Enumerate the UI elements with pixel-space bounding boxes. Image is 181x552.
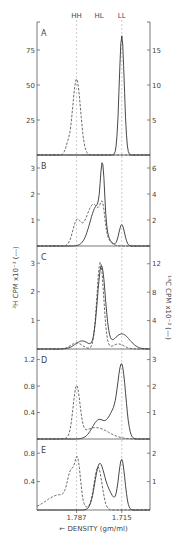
left-tick-label: 75 — [26, 47, 35, 55]
density-gradient-chart: HHHLLLA25507551015B123246C1234812D0.40.8… — [0, 0, 181, 552]
left-tick-label: 1 — [31, 217, 35, 225]
left-tick-label: 0.8 — [24, 450, 35, 458]
panel-d-3h-curve — [37, 385, 150, 439]
x-tick-label: 1.787 — [67, 514, 87, 522]
panel-a-14c-curve — [37, 36, 150, 155]
left-tick-label: 1 — [31, 317, 35, 325]
left-tick-label: 0.4 — [24, 409, 36, 417]
x-tick-label: 1.715 — [112, 514, 132, 522]
x-axis-title: ← DENSITY (gm/ml) — [59, 525, 128, 533]
right-tick-label: 3 — [152, 356, 156, 364]
left-tick-label: 2 — [31, 288, 35, 296]
right-tick-label: 15 — [152, 47, 161, 55]
left-tick-label: 3 — [31, 165, 35, 173]
right-tick-label: 2 — [152, 217, 156, 225]
left-tick-label: 3 — [31, 260, 35, 268]
panel-c-14c-curve — [37, 266, 150, 349]
right-tick-label: 4 — [152, 191, 157, 199]
right-tick-label: 5 — [152, 117, 156, 125]
right-tick-label: 4 — [152, 317, 157, 325]
right-tick-label: 12 — [152, 260, 161, 268]
reference-label-hl: HL — [95, 12, 104, 20]
left-axis-title: ³H CPM x10⁻³ (---) — [12, 246, 20, 309]
reference-label-hh: HH — [71, 12, 82, 20]
panel-label-a: A — [41, 29, 47, 38]
panel-label-d: D — [41, 356, 47, 365]
left-tick-label: 0.8 — [24, 383, 35, 391]
left-tick-label: 1.2 — [24, 356, 35, 364]
left-tick-label: 25 — [26, 117, 35, 125]
right-tick-label: 6 — [152, 165, 157, 173]
panel-label-e: E — [41, 446, 46, 455]
right-tick-label: 2 — [152, 383, 156, 391]
left-tick-label: 0.4 — [24, 478, 36, 486]
right-tick-label: 2 — [152, 450, 156, 458]
left-tick-label: 2 — [31, 191, 35, 199]
panel-b-14c-curve — [37, 163, 150, 246]
right-tick-label: 8 — [152, 289, 156, 297]
left-tick-label: 50 — [26, 82, 35, 90]
right-tick-label: 1 — [152, 409, 156, 417]
panel-a-3h-curve — [37, 79, 150, 155]
panel-label-b: B — [41, 162, 47, 171]
right-tick-label: 10 — [152, 82, 161, 90]
panel-e-3h-curve — [37, 457, 150, 510]
reference-label-ll: LL — [118, 12, 126, 20]
panel-label-c: C — [41, 253, 47, 262]
panel-b-3h-curve — [37, 201, 150, 246]
right-tick-label: 1 — [152, 478, 156, 486]
right-axis-title: ¹⁴C CPM x10⁻³ (—) — [164, 275, 172, 340]
